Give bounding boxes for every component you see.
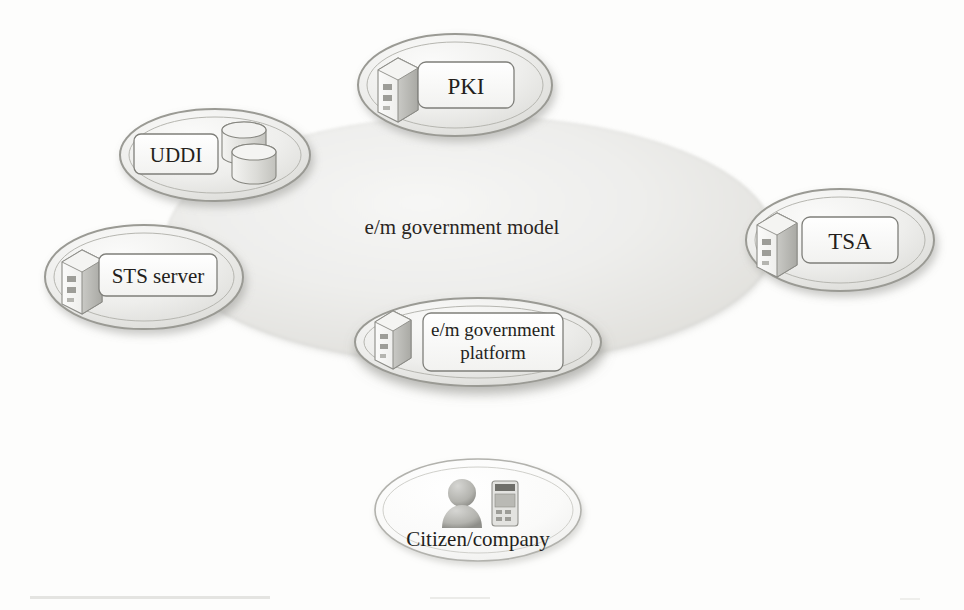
tsa-label: TSA: [828, 229, 872, 254]
sts-server-label: STS server: [112, 264, 205, 288]
em-government-platform-label-box[interactable]: e/m government platform: [423, 313, 563, 371]
diagram-canvas: e/m government model PKI: [0, 0, 964, 610]
tsa-server-icon: [757, 213, 797, 277]
mobile-device-icon: [492, 481, 518, 526]
pki-label-box[interactable]: PKI: [418, 62, 514, 108]
pki-label: PKI: [447, 74, 484, 99]
sts-server-label-box[interactable]: STS server: [99, 254, 217, 296]
sts-server-icon: [62, 250, 102, 314]
em-government-platform-server-icon: [375, 311, 411, 369]
em-government-platform-label-line2: platform: [460, 342, 526, 363]
scan-artifact-marks: [30, 596, 920, 600]
uddi-label: UDDI: [150, 143, 203, 167]
em-government-model-diagram: e/m government model PKI: [0, 0, 964, 610]
pki-server-icon: [378, 58, 418, 122]
uddi-label-box[interactable]: UDDI: [134, 134, 218, 174]
cloud-label: e/m government model: [365, 215, 560, 239]
citizen-company-label: Citizen/company: [406, 527, 550, 551]
em-government-platform-label-line1: e/m government: [431, 319, 556, 340]
tsa-label-box[interactable]: TSA: [802, 217, 898, 263]
